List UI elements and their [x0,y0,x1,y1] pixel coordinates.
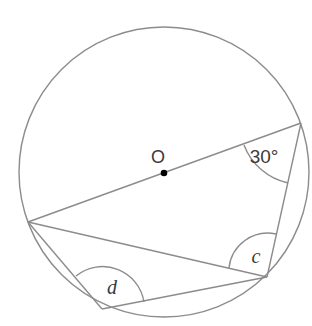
chord-ad [28,222,102,309]
center-dot [161,170,168,177]
chord-dc [102,277,267,309]
center-label: O [151,147,165,167]
angle-label-c: c [252,245,261,267]
angle-label-d: d [107,276,118,298]
chord-ac [28,222,267,277]
circle-theorem-diagram: O 30° c d [0,0,312,326]
angle-label-30: 30° [250,146,279,167]
